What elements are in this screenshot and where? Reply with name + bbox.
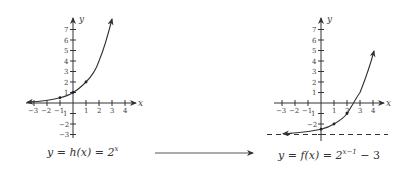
right-function-label: y = f(x) = 2x−1 − 3 bbox=[278, 148, 380, 162]
point bbox=[320, 128, 323, 131]
svg-text:5: 5 bbox=[64, 47, 68, 55]
svg-text:−3: −3 bbox=[28, 107, 38, 115]
x-axis-label: x bbox=[386, 98, 391, 108]
left-function-label: y = h(x) = 2x bbox=[47, 145, 118, 159]
svg-text:1: 1 bbox=[312, 89, 316, 97]
svg-text:3: 3 bbox=[358, 107, 362, 115]
left-graph: x y −3 −2 −1 1 2 3 4 bbox=[26, 14, 143, 139]
svg-text:−2: −2 bbox=[41, 107, 51, 115]
svg-text:−2: −2 bbox=[59, 121, 69, 129]
svg-text:−3: −3 bbox=[276, 107, 286, 115]
svg-text:3: 3 bbox=[110, 107, 114, 115]
svg-text:2: 2 bbox=[97, 107, 101, 115]
svg-text:−2: −2 bbox=[289, 107, 299, 115]
svg-text:1: 1 bbox=[332, 107, 336, 115]
y-axis-label: y bbox=[78, 14, 85, 24]
point bbox=[85, 81, 88, 84]
x-axis-label: x bbox=[138, 98, 143, 108]
point bbox=[72, 91, 75, 94]
point bbox=[346, 112, 349, 115]
svg-text:7: 7 bbox=[312, 26, 316, 34]
y-axis-label: y bbox=[326, 14, 333, 24]
svg-text:−3: −3 bbox=[59, 131, 69, 139]
curve-f bbox=[288, 51, 374, 134]
svg-text:3: 3 bbox=[312, 68, 316, 76]
x-ticks: −3 −2 −1 1 2 3 4 bbox=[28, 100, 128, 115]
svg-text:4: 4 bbox=[371, 107, 376, 115]
svg-text:−2: −2 bbox=[307, 121, 317, 129]
svg-text:4: 4 bbox=[312, 58, 317, 66]
point bbox=[59, 96, 62, 99]
svg-text:1: 1 bbox=[311, 110, 315, 118]
svg-text:7: 7 bbox=[64, 26, 68, 34]
svg-text:2: 2 bbox=[64, 79, 68, 87]
svg-text:6: 6 bbox=[312, 37, 317, 45]
point bbox=[333, 123, 336, 126]
right-graph: x y −3 −2 −1 1 2 3 4 bbox=[267, 14, 391, 141]
svg-text:5: 5 bbox=[312, 47, 316, 55]
svg-text:1: 1 bbox=[63, 110, 67, 118]
x-ticks: −3 −2 −1 1 2 3 4 bbox=[276, 100, 376, 115]
svg-text:1: 1 bbox=[84, 107, 88, 115]
svg-text:4: 4 bbox=[123, 107, 128, 115]
svg-text:6: 6 bbox=[64, 37, 69, 45]
svg-text:2: 2 bbox=[312, 79, 316, 87]
svg-text:3: 3 bbox=[64, 68, 68, 76]
svg-text:4: 4 bbox=[64, 58, 69, 66]
